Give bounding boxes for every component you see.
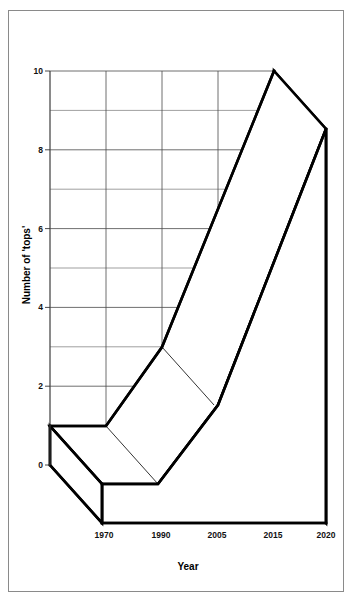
chart-canvas: 10 8 6 4 2 0 1970 1990 2005 2015 2020 Ye… <box>0 0 353 603</box>
x-tick-label: 1990 <box>152 530 171 540</box>
y-tick-label: 6 <box>38 224 43 234</box>
x-tick-label: 2005 <box>208 530 227 540</box>
x-tick-label: 2020 <box>317 530 336 540</box>
x-tick-label: 1970 <box>95 530 114 540</box>
y-tick-labels: 10 8 6 4 2 0 <box>34 66 44 470</box>
y-tick-label: 10 <box>34 66 44 76</box>
y-tick-label: 8 <box>38 145 43 155</box>
y-axis-title: Number of 'tops' <box>21 226 32 305</box>
x-tick-label: 2015 <box>264 530 283 540</box>
chart-figure: 10 8 6 4 2 0 1970 1990 2005 2015 2020 Ye… <box>0 0 353 603</box>
y-tick-label: 0 <box>38 460 43 470</box>
y-axis <box>45 71 50 465</box>
x-tick-labels: 1970 1990 2005 2015 2020 <box>95 530 336 540</box>
y-tick-label: 2 <box>38 381 43 391</box>
x-axis-title: Year <box>177 561 198 572</box>
y-tick-label: 4 <box>38 302 43 312</box>
